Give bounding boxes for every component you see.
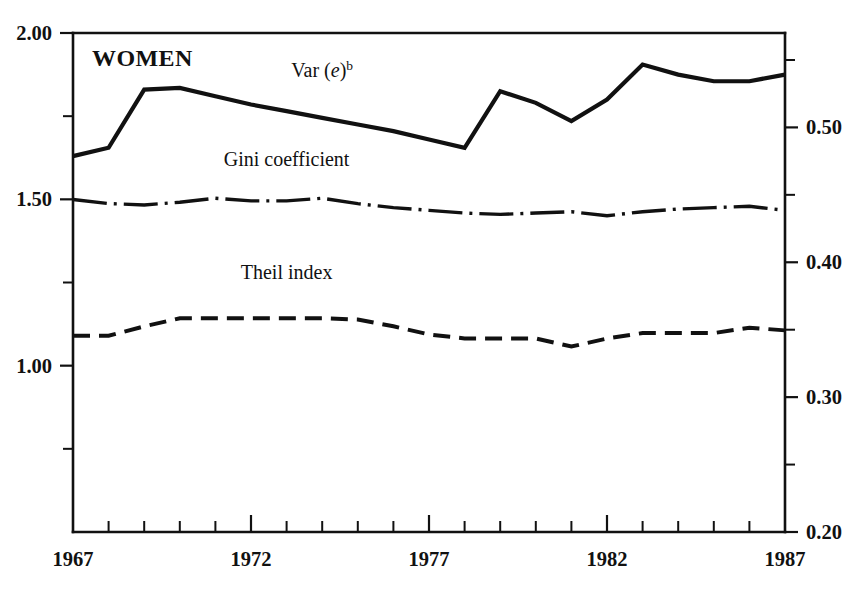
chart-figure: 2.001.501.000.500.400.300.20196719721977… bbox=[0, 0, 857, 597]
x-axis-label-0: 1967 bbox=[53, 548, 94, 570]
y-axis-right-label-0: 0.50 bbox=[806, 116, 842, 138]
series-label-theil: Theil index bbox=[241, 261, 333, 283]
x-axis-label-1: 1972 bbox=[231, 548, 272, 570]
y-axis-right-label-1: 0.40 bbox=[806, 251, 842, 273]
chart-background bbox=[0, 0, 857, 597]
series-label-var-e: Var (e)b bbox=[291, 58, 353, 82]
x-axis-label-4: 1987 bbox=[765, 548, 806, 570]
var-label-close-paren: ) bbox=[340, 59, 347, 82]
y-axis-left-label-2: 1.00 bbox=[16, 355, 52, 377]
panel-title: WOMEN bbox=[92, 45, 193, 71]
y-axis-right-label-3: 0.20 bbox=[806, 521, 842, 543]
series-label-gini: Gini coefficient bbox=[224, 148, 350, 170]
x-axis-label-3: 1982 bbox=[587, 548, 628, 570]
line-chart: 2.001.501.000.500.400.300.20196719721977… bbox=[0, 0, 857, 597]
var-label-italic-e: e bbox=[331, 59, 340, 81]
var-label-superscript: b bbox=[346, 58, 353, 73]
x-axis-label-2: 1977 bbox=[409, 548, 450, 570]
var-label-main: Var ( bbox=[291, 59, 331, 82]
y-axis-left-label-0: 2.00 bbox=[16, 22, 52, 44]
y-axis-left-label-1: 1.50 bbox=[16, 188, 52, 210]
y-axis-right-label-2: 0.30 bbox=[806, 386, 842, 408]
